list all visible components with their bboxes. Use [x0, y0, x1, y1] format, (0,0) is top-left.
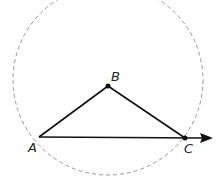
label-c: C: [184, 141, 194, 156]
triangle-diagram: A B C: [0, 0, 218, 177]
label-b: B: [111, 69, 120, 84]
label-a: A: [27, 140, 37, 155]
diagram-canvas: A B C: [0, 0, 218, 177]
ray-ac: [39, 137, 204, 138]
point-c-dot: [183, 136, 188, 141]
segment-ab: [39, 86, 108, 137]
point-b-dot: [106, 84, 111, 89]
segment-bc: [108, 86, 185, 138]
